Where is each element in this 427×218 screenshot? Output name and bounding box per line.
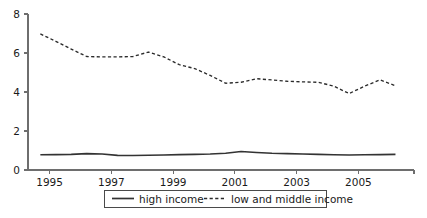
chart-canvas: 02468 199519971999200120032005 high inco… <box>0 0 427 218</box>
x-tick-label: 2003 <box>283 176 310 188</box>
x-tick-label: 2001 <box>222 176 249 188</box>
x-tick-label: 1995 <box>36 176 63 188</box>
x-axis: 199519971999200120032005 <box>28 170 414 188</box>
x-tick-label: 1997 <box>98 176 125 188</box>
y-tick-labels: 02468 <box>13 8 20 176</box>
y-tick-label: 2 <box>13 125 20 137</box>
y-tick-label: 6 <box>13 47 20 59</box>
y-tick-label: 0 <box>13 164 20 176</box>
x-tick-labels: 199519971999200120032005 <box>36 176 372 188</box>
y-tick-label: 8 <box>13 8 20 20</box>
series-line-low-and-middle-income <box>40 34 395 94</box>
series-group <box>40 34 395 156</box>
x-tick-label: 2005 <box>345 176 372 188</box>
series-line-high-income <box>40 151 395 155</box>
line-chart: 02468 199519971999200120032005 high inco… <box>0 0 427 218</box>
x-tick-label: 1999 <box>160 176 187 188</box>
y-axis: 02468 <box>13 8 28 176</box>
chart-legend: high income low and middle income <box>104 190 353 207</box>
y-tick-label: 4 <box>13 86 20 98</box>
legend-label-high-income: high income <box>139 193 204 205</box>
legend-label-low-and-middle-income: low and middle income <box>231 193 353 205</box>
